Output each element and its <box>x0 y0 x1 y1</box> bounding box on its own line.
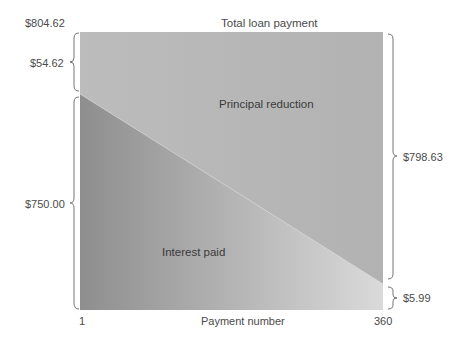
brace-interest-start <box>70 97 79 309</box>
brace-principal-end <box>388 34 397 279</box>
interest-region-label: Interest paid <box>162 247 225 259</box>
x-tick-start: 1 <box>79 316 85 327</box>
principal-start-label: $54.62 <box>30 58 64 69</box>
chart-title: Total loan payment <box>221 18 318 30</box>
interest-start-label: $750.00 <box>25 199 65 210</box>
brace-principal-start <box>70 33 79 91</box>
total-payment-label: $804.62 <box>25 18 65 29</box>
x-axis-label: Payment number <box>201 316 285 327</box>
interest-end-label: $5.99 <box>403 293 431 304</box>
brace-interest-end <box>388 287 397 309</box>
principal-end-label: $798.63 <box>403 152 443 163</box>
principal-region-label: Principal reduction <box>219 99 314 111</box>
amortization-chart <box>0 0 462 346</box>
x-tick-end: 360 <box>374 316 392 327</box>
